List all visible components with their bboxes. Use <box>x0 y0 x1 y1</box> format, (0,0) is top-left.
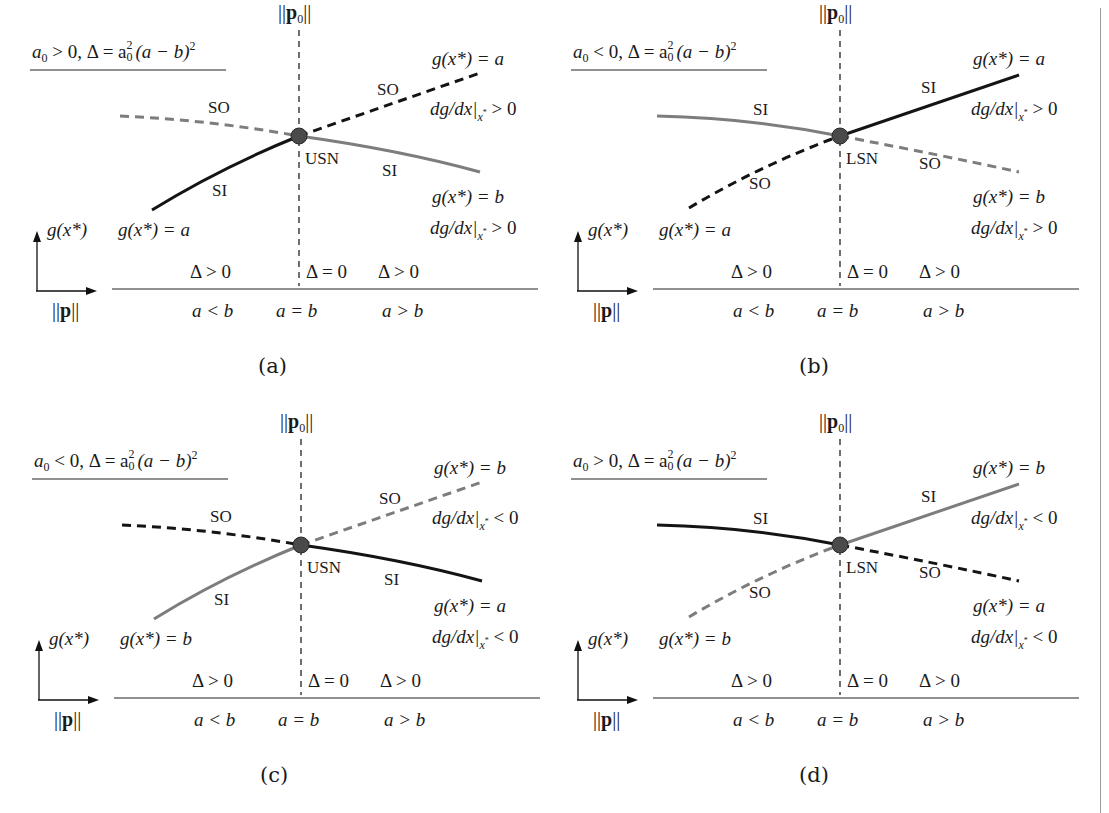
bottom-left-equation: g(x*) = a <box>118 220 190 239</box>
panel-caption: (b) <box>799 356 829 377</box>
stability-label-left-lower: SO <box>749 175 771 192</box>
node-type-label: USN <box>305 150 339 167</box>
branch-left-lower-so <box>689 545 840 617</box>
stability-label-right-upper: SI <box>921 79 936 96</box>
x-axis-label: ||p|| <box>593 709 620 729</box>
y-axis-arrow-icon <box>33 231 41 242</box>
condition-mid: a = b <box>276 301 317 320</box>
stability-label-left-lower: SI <box>212 182 227 199</box>
x-axis-arrow-icon <box>627 287 638 295</box>
y-axis-label: g(x*) <box>49 629 89 648</box>
stability-label-right-lower: SI <box>384 571 399 588</box>
bottom-left-equation: g(x*) = b <box>659 629 731 648</box>
mid-right-derivative: dg/dx|x* < 0 <box>432 627 518 651</box>
delta-mid: Δ = 0 <box>308 671 349 690</box>
node-type-label: LSN <box>846 559 878 576</box>
x-axis-label: ||p|| <box>52 300 79 320</box>
mid-right-equation: g(x*) = a <box>434 596 506 615</box>
saddle-node-marker <box>832 128 848 144</box>
delta-mid: Δ = 0 <box>847 671 888 690</box>
panel-title: a0 > 0, Δ = a20(a − b)2 <box>32 40 196 64</box>
stability-label-left-upper: SO <box>208 99 230 116</box>
x-axis-label: ||p|| <box>593 300 620 320</box>
panel-caption: (c) <box>260 765 288 786</box>
condition-right: a > b <box>384 710 425 729</box>
bottom-left-equation: g(x*) = b <box>120 629 192 648</box>
condition-right: a > b <box>923 710 964 729</box>
stability-label-left-upper: SI <box>753 510 768 527</box>
delta-right: Δ > 0 <box>919 671 960 690</box>
stability-label-left-upper: SI <box>753 101 768 118</box>
top-right-equation: g(x*) = b <box>434 458 506 477</box>
panel-title: a0 < 0, Δ = a20(a − b)2 <box>573 40 737 64</box>
top-right-equation: g(x*) = b <box>973 458 1045 477</box>
node-type-label: LSN <box>846 150 878 167</box>
y-axis-label: g(x*) <box>588 220 628 239</box>
stability-label-right-lower: SO <box>919 155 941 172</box>
panel-c: a0 < 0, Δ = a20(a − b)2 ||p0|| SO SI SO … <box>2 409 547 813</box>
branch-left-upper-si <box>657 525 840 545</box>
y-axis-label: g(x*) <box>588 629 628 648</box>
p0-label: ||p0|| <box>819 411 852 434</box>
p0-label: ||p0|| <box>278 2 311 25</box>
top-right-derivative: dg/dx|x* > 0 <box>971 99 1057 123</box>
branch-left-upper-si <box>657 116 840 136</box>
condition-mid: a = b <box>817 710 858 729</box>
delta-left: Δ > 0 <box>190 262 231 281</box>
saddle-node-marker <box>293 537 309 553</box>
x-axis-arrow-icon <box>627 696 638 704</box>
stability-label-right-upper: SO <box>377 81 399 98</box>
stability-label-left-lower: SO <box>749 584 771 601</box>
x-axis-arrow-icon <box>86 287 97 295</box>
condition-mid: a = b <box>817 301 858 320</box>
top-right-equation: g(x*) = a <box>432 49 504 68</box>
condition-right: a > b <box>382 301 423 320</box>
top-right-derivative: dg/dx|x* < 0 <box>971 508 1057 532</box>
branch-left-upper-so <box>122 525 301 545</box>
bottom-left-equation: g(x*) = a <box>659 220 731 239</box>
node-type-label: USN <box>307 559 341 576</box>
panel-caption: (a) <box>258 356 287 377</box>
top-right-derivative: dg/dx|x* < 0 <box>432 508 518 532</box>
panel-a: a0 > 0, Δ = a20(a − b)2 ||p0|| SO SI SO … <box>0 0 545 406</box>
panel-b: a0 < 0, Δ = a20(a − b)2 ||p0|| SI SO SI … <box>541 0 1086 406</box>
stability-label-right-lower: SO <box>919 564 941 581</box>
panel-title: a0 < 0, Δ = a20(a − b)2 <box>34 449 198 473</box>
p0-label: ||p0|| <box>819 2 852 25</box>
mid-right-derivative: dg/dx|x* < 0 <box>971 627 1057 651</box>
mid-right-derivative: dg/dx|x* > 0 <box>971 218 1057 242</box>
panel-title: a0 > 0, Δ = a20(a − b)2 <box>573 449 737 473</box>
stability-label-right-lower: SI <box>382 162 397 179</box>
mid-right-equation: g(x*) = b <box>973 187 1045 206</box>
y-axis-arrow-icon <box>574 231 582 242</box>
delta-right: Δ > 0 <box>380 671 421 690</box>
delta-mid: Δ = 0 <box>847 262 888 281</box>
mid-right-equation: g(x*) = b <box>432 187 504 206</box>
condition-left: a < b <box>733 710 774 729</box>
mid-right-derivative: dg/dx|x* > 0 <box>430 218 516 242</box>
delta-left: Δ > 0 <box>731 671 772 690</box>
condition-right: a > b <box>923 301 964 320</box>
delta-left: Δ > 0 <box>731 262 772 281</box>
stability-label-right-upper: SO <box>379 490 401 507</box>
y-axis-arrow-icon <box>574 640 582 651</box>
top-right-equation: g(x*) = a <box>973 49 1045 68</box>
stability-label-left-lower: SI <box>214 591 229 608</box>
delta-right: Δ > 0 <box>919 262 960 281</box>
saddle-node-marker <box>832 537 848 553</box>
y-axis-arrow-icon <box>35 640 43 651</box>
condition-left: a < b <box>733 301 774 320</box>
page-edge-rule <box>1100 8 1101 813</box>
y-axis-label: g(x*) <box>47 220 87 239</box>
stability-label-right-upper: SI <box>921 488 936 505</box>
condition-left: a < b <box>194 710 235 729</box>
branch-left-lower-so <box>689 136 840 208</box>
x-axis-arrow-icon <box>88 696 99 704</box>
panel-caption: (d) <box>799 765 829 786</box>
x-axis-label: ||p|| <box>54 709 81 729</box>
saddle-node-marker <box>291 128 307 144</box>
panel-d: a0 > 0, Δ = a20(a − b)2 ||p0|| SI SO SI … <box>541 409 1086 813</box>
top-right-derivative: dg/dx|x* > 0 <box>430 99 516 123</box>
delta-left: Δ > 0 <box>192 671 233 690</box>
delta-right: Δ > 0 <box>378 262 419 281</box>
